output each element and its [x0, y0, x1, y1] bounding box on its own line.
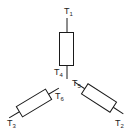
winding-1-body	[60, 33, 74, 66]
winding-1	[60, 18, 74, 79]
lead-t2	[113, 107, 123, 114]
label-t2: T2	[115, 118, 125, 129]
label-t6: T6	[55, 91, 65, 102]
winding-diagram: T1 T4 T5 T6 T3 T2	[0, 0, 129, 138]
winding-2-body	[81, 84, 116, 113]
label-t1: T1	[64, 6, 74, 17]
label-t5: T5	[72, 78, 82, 89]
winding-3-body	[16, 89, 51, 117]
label-t4: T4	[54, 67, 64, 78]
lead-t3	[9, 112, 19, 118]
winding-3	[6, 83, 62, 123]
label-t3: T3	[7, 118, 17, 129]
